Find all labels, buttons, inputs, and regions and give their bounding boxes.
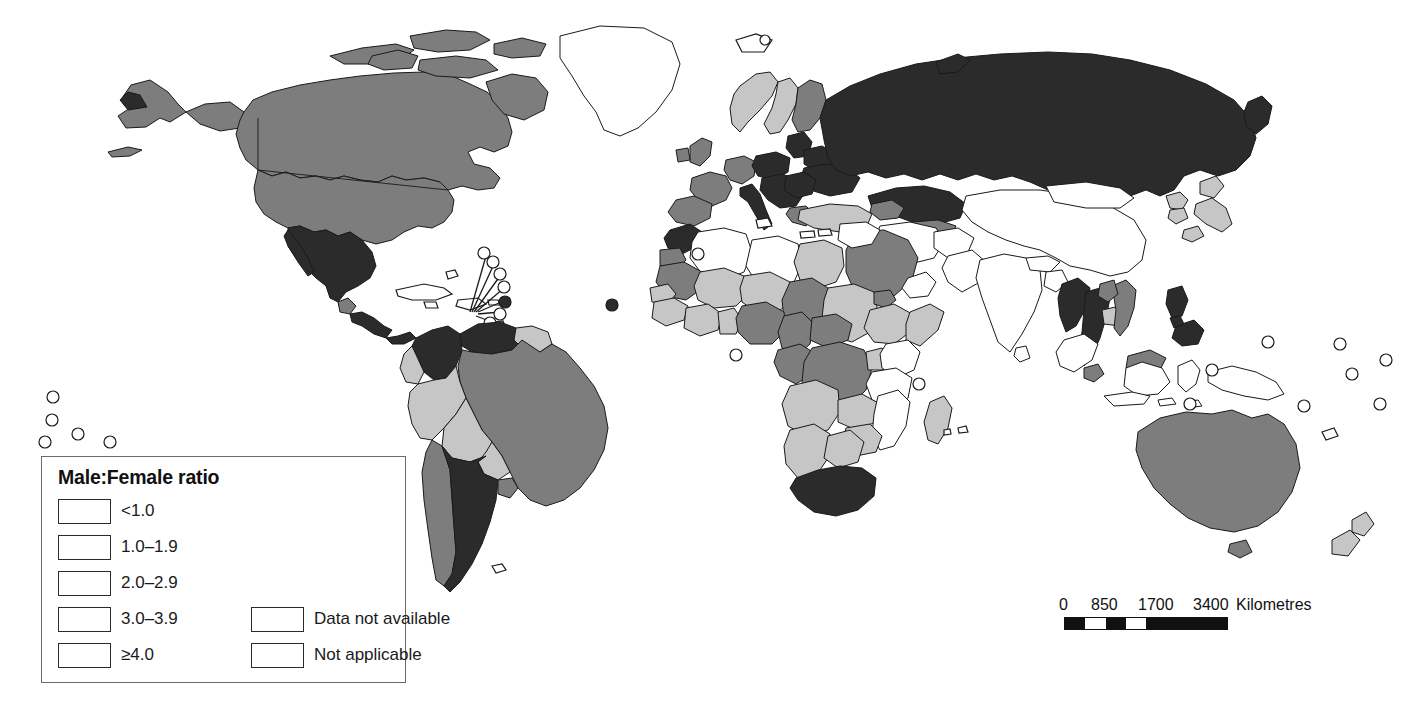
legend-swatch-not-applicable [251,643,304,668]
map-legend: Male:Female ratio <1.0 1.0–1.9 2.0–2.9 3… [41,456,406,683]
region-guatemala [338,298,356,314]
island-cyprus [818,229,832,236]
region-russia [820,52,1256,196]
scale-segment-1 [1085,618,1105,629]
region-alaska-panhandle [186,102,244,131]
legend-swatch-0 [58,499,111,524]
legend-label-data-not-available: Data not available [314,609,450,629]
region-united-states [254,170,454,244]
scale-bar-graphic [1064,617,1228,630]
scale-tick-0: 0 [1059,596,1068,614]
map-page: Male:Female ratio <1.0 1.0–1.9 2.0–2.9 3… [0,0,1410,705]
legend-label-not-applicable: Not applicable [314,645,422,665]
scale-bar: 0 850 1700 3400 Kilometres [1053,596,1343,638]
region-japan-south [1182,226,1204,242]
region-north-korea [1166,192,1188,210]
legend-swatch-2 [58,571,111,596]
region-australia [1136,410,1300,532]
region-japan-north [1200,176,1224,198]
island-cuba [396,284,452,300]
region-kamchatka [1244,96,1272,134]
region-sri-lanka [1014,346,1030,362]
legend-swatch-3 [58,607,111,632]
region-aleutians [108,147,142,157]
island-reunion [944,429,951,435]
region-madagascar [924,396,952,444]
scale-tick-850: 850 [1091,596,1118,614]
island-canary-islands [692,248,704,260]
region-greenland [560,26,680,136]
region-somalia [906,304,944,346]
legend-label-4: ≥4.0 [121,645,154,665]
region-indonesia-lesser-sunda [1158,398,1176,406]
region-indonesia-borneo [1124,362,1170,396]
island-new-caledonia [1322,428,1338,440]
island-bahamas [446,270,458,279]
region-philippines-luzon [1166,286,1188,318]
region-cote-divoire [684,304,722,336]
region-ethiopia [864,304,912,344]
region-papua-new-guinea [1208,366,1284,400]
island-jamaica [424,302,438,308]
region-nepal-bhutan [1026,256,1060,272]
region-indonesia-sulawesi [1178,360,1200,392]
legend-swatch-4 [58,643,111,668]
scale-segment-2 [1106,618,1126,629]
region-uk [690,138,712,166]
scale-tick-1700: 1700 [1138,596,1174,614]
region-arctic-islands-4 [494,38,546,58]
island-mauritius [958,426,968,433]
region-panama [386,332,416,344]
region-arctic-islands-2 [410,30,490,52]
region-new-zealand-north [1352,512,1374,536]
scale-segment-3 [1126,618,1146,629]
legend-swatch-1 [58,535,111,560]
island-sao-tome [730,349,742,361]
region-tasmania [1228,540,1252,558]
legend-swatch-data-not-available [251,607,304,632]
scale-tick-3400: 3400 [1193,596,1229,614]
legend-label-1: 1.0–1.9 [121,537,178,557]
region-germany [724,156,756,184]
legend-label-0: <1.0 [121,501,155,521]
region-new-zealand-south [1332,530,1360,556]
region-malaysia [1084,364,1104,382]
island-crete [800,231,815,238]
region-central-america [350,312,392,338]
caribbean-callouts [470,247,511,329]
scale-segment-4 [1146,618,1227,629]
island-falklands [492,564,506,573]
region-ireland [676,148,690,162]
region-south-korea [1168,208,1188,224]
island-comoros [913,378,925,390]
scale-unit-label: Kilometres [1236,596,1312,614]
scale-segment-0 [1065,618,1085,629]
island-cape-verde [606,299,618,311]
region-japan-main [1194,198,1232,232]
scale-tick-labels: 0 850 1700 3400 Kilometres [1053,596,1343,616]
legend-label-3: 3.0–3.9 [121,609,178,629]
legend-title: Male:Female ratio [58,466,219,489]
legend-label-2: 2.0–2.9 [121,573,178,593]
region-indonesia-java [1104,392,1150,406]
region-guinea [652,298,688,326]
